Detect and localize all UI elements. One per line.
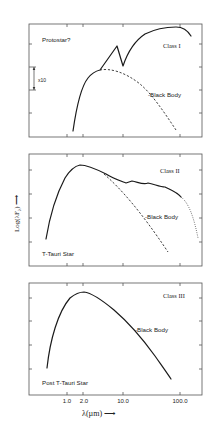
class-label: Class I: [163, 42, 181, 49]
x-tick-label: 10.0: [117, 398, 129, 404]
panel-class-2: T-Tauri Star Class II -Black Body: [29, 154, 202, 266]
x-axis-label: λ(µm)⟶: [82, 409, 116, 418]
class-2-extrapolation-curve: [181, 197, 198, 238]
class-label: Class III: [163, 292, 185, 299]
scale-bar: x10: [32, 67, 46, 90]
x-tick-label: 1.0: [63, 398, 72, 404]
panel-class-3: Post T-Tauri Star Class III -Black Body …: [29, 283, 202, 404]
class-3-sed-curve: [47, 292, 171, 379]
object-label: Protostar?: [42, 36, 71, 43]
blackbody-label: -Black Body: [135, 326, 169, 333]
x-tick-label: 2.0: [80, 398, 89, 404]
scale-bar-label: x10: [38, 77, 46, 83]
y-axis-label: Log(λFλ)⟶: [13, 195, 22, 232]
class-label: Class II: [160, 167, 180, 174]
x-tick-label: 100.0: [172, 398, 188, 404]
object-label: Post T-Tauri Star: [42, 379, 88, 386]
object-label: T-Tauri Star: [42, 250, 74, 257]
panel-class-1: x10 Protostar? Class I -Black Body: [29, 24, 202, 137]
sed-class-figure: x10 Protostar? Class I -Black Body: [0, 0, 214, 434]
blackbody-label: -Black Body: [148, 91, 182, 98]
blackbody-label: -Black Body: [145, 213, 179, 220]
class-2-sed-curve: [46, 165, 181, 239]
class-1-blackbody-curve: [100, 70, 176, 130]
